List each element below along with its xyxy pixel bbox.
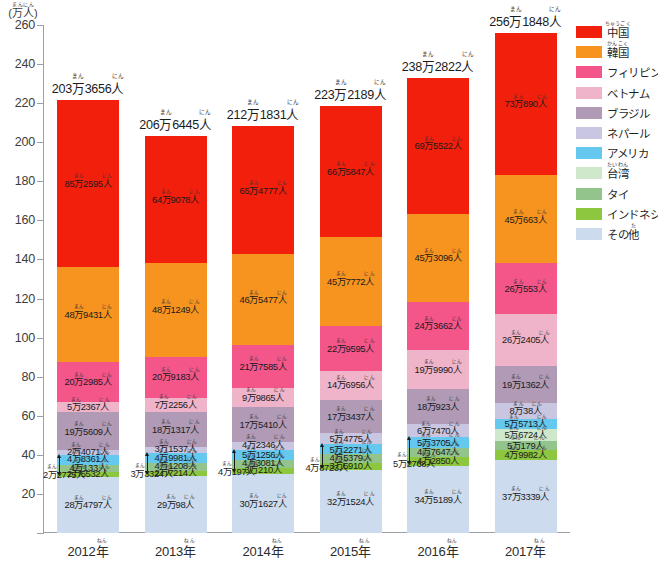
legend-label: アメリカ — [607, 145, 649, 161]
bar-segment[interactable]: 18万まん923人にん — [407, 389, 469, 424]
x-axis-label: 2012年ねん — [43, 541, 133, 560]
legend-label: フィリピン — [607, 64, 658, 80]
legend-label: タイ — [607, 186, 628, 202]
y-tick-label: 140 — [15, 252, 35, 266]
bar-column[interactable]: 238万まん2822人にん69万まん5522人にん45万まん3096人にん24万… — [407, 78, 469, 533]
bar-segment[interactable]: 7万まん2256人にん — [145, 398, 207, 412]
bar-segment[interactable]: 9万まん9865人にん — [232, 388, 294, 408]
legend-label: ベトナム — [607, 85, 650, 101]
bar-column[interactable]: 203万まん3656人にん85万まん2595人にん48万まん9431人にん20万… — [57, 100, 119, 533]
bar-column[interactable]: 206万まん6445人にん64万まん9078人にん48万まん1249人にん20万… — [145, 136, 207, 533]
x-axis-label: 2013年ねん — [131, 541, 221, 560]
bar-segment[interactable]: 45万まん663人にん — [495, 175, 557, 263]
bar-segment-label: 14万まん6956人にん — [327, 380, 374, 389]
bar-segment[interactable]: 34万まん5189人にん — [407, 466, 469, 533]
legend-item[interactable]: ネパール — [576, 123, 658, 143]
bar-segment-label: 26万まん2405人にん — [502, 335, 549, 344]
y-tick-label: 200 — [15, 135, 35, 149]
bar-segment[interactable]: 69万まん5522人にん — [407, 78, 469, 214]
y-tick-label: 180 — [15, 174, 35, 188]
legend-item[interactable]: 韓国かんこく — [576, 42, 658, 62]
y-tick-label: 40 — [21, 448, 35, 462]
bar-segment[interactable]: 73万まん890人にん — [495, 33, 557, 176]
legend-item[interactable]: ブラジル — [576, 103, 658, 123]
bar-segment[interactable]: 20万まん9183人にん — [145, 357, 207, 398]
legend-swatch — [576, 167, 602, 179]
bar-segment[interactable]: 46万まん5477人にん — [232, 254, 294, 345]
bar-segment[interactable]: 29万まん98人にん — [145, 476, 207, 533]
bar-column[interactable]: 212万まん1831人にん65万まん4777人にん46万まん5477人にん21万… — [232, 126, 294, 533]
chart-legend: 中国ちゅうごく韓国かんこくフィリピンベトナムブラジルネパールアメリカ台湾たいわん… — [576, 22, 658, 244]
leader-line — [409, 439, 410, 461]
bar-segment-label: 85万まん2595人にん — [65, 179, 112, 188]
bar-segment[interactable]: 64万まん9078人にん — [145, 136, 207, 263]
bar-segment-label: 66万まん5847人にん — [327, 167, 374, 176]
legend-item[interactable]: ベトナム — [576, 83, 658, 103]
legend-swatch — [576, 188, 602, 200]
y-tick-label: 20 — [21, 487, 35, 501]
bar-segment[interactable]: 48万まん9431人にん — [57, 267, 119, 363]
bar-segment-label: 24万まん3662人にん — [415, 321, 462, 330]
bar-segment-label: 64万まん9078人にん — [152, 195, 199, 204]
bar-segment[interactable]: 28万まん4797人にん — [57, 477, 119, 533]
bar-segment-label: 45万まん7772人にん — [327, 277, 374, 286]
legend-item[interactable]: フィリピン — [576, 62, 658, 82]
bar-total-label: 212万まん1831人にん — [227, 104, 299, 123]
bar-segment-label: 26万まん553人にん — [505, 284, 547, 293]
plot-area: 20406080100120140160180200220240260 203万… — [43, 25, 570, 533]
bar-segment[interactable]: 20万まん2985人にん — [57, 362, 119, 402]
bar-segment[interactable]: 26万まん2405人にん — [495, 314, 557, 365]
bar-segment[interactable]: 32万まん1524人にん — [320, 470, 382, 533]
bar-segment-label: 65万まん4777人にん — [240, 186, 287, 195]
x-axis-label: 2017年ねん — [481, 541, 571, 560]
bar-segment[interactable]: 37万まん3339人にん — [495, 460, 557, 533]
bar-segment-label: 7万まん2256人にん — [155, 400, 197, 409]
chart-root: まんにん (万人) 204060801001201401601802002202… — [0, 0, 658, 571]
bar-segment[interactable]: 5万まん2367人にん — [57, 402, 119, 412]
legend-label: 韓国かんこく — [607, 44, 628, 60]
legend-item[interactable]: インドネシア — [576, 204, 658, 224]
leader-line — [147, 455, 148, 472]
bar-segment[interactable]: 14万まん6956人にん — [320, 371, 382, 400]
legend-item[interactable]: 台湾たいわん — [576, 163, 658, 183]
y-tick-label: 100 — [15, 331, 35, 345]
bar-segment-label: 45万まん3096人にん — [415, 253, 462, 262]
bar-segment[interactable]: 19万まん1362人にん — [495, 366, 557, 403]
bar-segment[interactable]: 5万まん6724人にん — [495, 429, 557, 440]
y-tick-label: 60 — [21, 409, 35, 423]
bar-segment[interactable]: 24万まん3662人にん — [407, 302, 469, 350]
bar-column[interactable]: 256万まん1848人にん73万まん890人にん45万まん663人にん26万まん… — [495, 33, 557, 533]
bar-segment[interactable]: 4万まん9982人にん — [495, 450, 557, 460]
legend-item[interactable]: タイ — [576, 184, 658, 204]
bar-segment[interactable]: 17万まん3437人にん — [320, 400, 382, 434]
bar-segment[interactable]: 22万まん9595人にん — [320, 326, 382, 371]
legend-label: 中国ちゅうごく — [607, 24, 628, 40]
bar-segment-label: 19万まん1362人にん — [502, 380, 549, 389]
bar-segment-label: 48万まん1249人にん — [152, 305, 199, 314]
bar-segment[interactable]: 21万まん7585人にん — [232, 345, 294, 388]
bar-total-label: 206万まん6445人にん — [139, 114, 211, 133]
bar-total-label: 203万まん3656人にん — [52, 78, 124, 97]
bar-segment[interactable]: 45万まん7772人にん — [320, 237, 382, 326]
bar-segment[interactable]: 19万まん9990人にん — [407, 350, 469, 389]
legend-swatch — [576, 127, 602, 139]
bar-segment[interactable]: 85万まん2595人にん — [57, 100, 119, 267]
bar-segment[interactable]: 66万まん5847人にん — [320, 106, 382, 236]
bar-callout-label: 2万まん2775人にん — [43, 467, 85, 481]
bar-segment-label: 18万まん1317人にん — [152, 425, 199, 434]
bar-segment[interactable]: 45万まん3096人にん — [407, 214, 469, 303]
bar-segment[interactable]: 65万まん4777人にん — [232, 126, 294, 254]
bar-segment[interactable]: 26万まん553人にん — [495, 263, 557, 314]
bar-callout-label: 5万まん2768人にん — [393, 456, 435, 470]
y-tick-label: 160 — [15, 213, 35, 227]
bar-segment-label: 45万まん663人にん — [505, 215, 547, 224]
bar-callout-label: 4万まん8723人にん — [306, 460, 348, 474]
bar-column[interactable]: 223万まん2189人にん66万まん5847人にん45万まん7772人にん22万… — [320, 106, 382, 533]
y-tick-label: 240 — [15, 57, 35, 71]
bar-segment[interactable]: 48万まん1249人にん — [145, 263, 207, 357]
legend-label: ブラジル — [607, 105, 650, 121]
bar-segment-label: 19万まん5609人にん — [65, 427, 112, 436]
legend-item[interactable]: その他た — [576, 224, 658, 244]
bar-segment-label: 17万まん5410人にん — [240, 420, 287, 429]
bar-segment[interactable]: 30万まん1627人にん — [232, 474, 294, 533]
